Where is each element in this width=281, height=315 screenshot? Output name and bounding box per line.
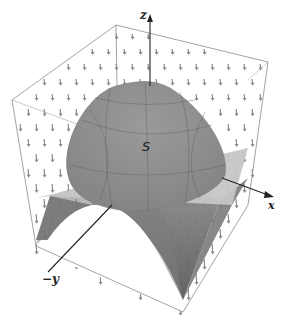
vector-arrowhead: [59, 175, 63, 178]
vector-arrow: [188, 289, 189, 298]
x-axis-arrowhead: [264, 191, 274, 198]
vector-arrowhead: [235, 113, 239, 116]
vector-arrow: [204, 259, 205, 268]
vector-arrowhead: [259, 98, 263, 101]
vector-arrowhead: [235, 144, 239, 147]
vector-arrowhead: [139, 297, 143, 300]
vector-arrowhead: [59, 144, 63, 147]
vector-arrowhead: [251, 83, 255, 86]
vector-arrowhead: [99, 282, 103, 285]
vector-arrowhead: [43, 113, 47, 116]
vector-arrowhead: [203, 267, 207, 270]
vector-arrowhead: [115, 67, 119, 70]
vector-arrowhead: [83, 67, 87, 70]
vector-arrowhead: [107, 83, 111, 86]
vector-arrowhead: [43, 205, 47, 208]
vector-arrowhead: [219, 83, 223, 86]
vector-arrowhead: [251, 144, 255, 147]
vector-arrowhead: [27, 113, 31, 116]
x-axis-label: x: [267, 199, 275, 212]
vector-arrow: [44, 199, 45, 206]
vector-arrowhead: [227, 67, 231, 70]
vector-arrowhead: [99, 67, 103, 70]
vector-arrowhead: [203, 83, 207, 86]
vector-arrowhead: [35, 221, 39, 224]
vector-arrowhead: [243, 67, 247, 70]
vector-arrowhead: [243, 129, 247, 132]
vector-arrowhead: [43, 144, 47, 147]
vector-arrowhead: [59, 83, 63, 86]
vector-arrow: [220, 229, 221, 237]
vector-arrowhead: [35, 98, 39, 101]
vector-arrow: [196, 274, 197, 283]
vector-arrowhead: [27, 175, 31, 178]
vector-arrowhead: [163, 67, 167, 70]
vector-arrowhead: [131, 37, 135, 40]
vector-arrowhead: [243, 98, 247, 101]
vector-arrowhead: [83, 98, 87, 101]
z-axis-arrowhead: [147, 14, 153, 22]
vector-arrow: [36, 184, 37, 191]
vector-arrow: [212, 244, 213, 252]
vector-arrowhead: [155, 52, 159, 55]
vector-arrowhead: [171, 83, 175, 86]
surface-label: S: [142, 139, 150, 154]
vector-arrowhead: [235, 205, 239, 208]
vector-arrowhead: [251, 175, 255, 178]
vector-arrowhead: [219, 113, 223, 116]
vector-arrowhead: [139, 52, 143, 55]
vector-arrowhead: [107, 52, 111, 55]
vector-arrowhead: [51, 98, 55, 101]
vector-arrowhead: [51, 159, 55, 162]
vector-arrowhead: [67, 98, 71, 101]
vector-arrow: [60, 169, 61, 176]
vector-arrowhead: [75, 113, 79, 116]
vector-arrowhead: [51, 129, 55, 132]
vector-arrowhead: [219, 236, 223, 239]
vector-arrowhead: [59, 113, 63, 116]
vector-arrowhead: [227, 221, 231, 224]
vector-arrow: [44, 169, 45, 176]
vector-arrowhead: [243, 190, 247, 193]
vector-arrowhead: [131, 67, 135, 70]
vector-arrowhead: [123, 52, 127, 55]
vector-arrowhead: [227, 129, 231, 132]
vector-arrowhead: [43, 175, 47, 178]
vector-arrowhead: [35, 159, 39, 162]
vector-arrow: [36, 214, 37, 222]
vector-arrowhead: [171, 52, 175, 55]
vector-arrowhead: [67, 67, 71, 70]
vector-arrowhead: [27, 144, 31, 147]
vector-arrow: [228, 214, 229, 222]
vector-arrowhead: [251, 113, 255, 116]
vector-arrowhead: [115, 37, 119, 40]
z-axis-label: z: [139, 8, 148, 22]
vector-arrowhead: [203, 52, 207, 55]
vector-arrowhead: [187, 52, 191, 55]
vector-arrowhead: [67, 129, 71, 132]
y-axis-label: −y: [42, 272, 60, 286]
vector-arrowhead: [91, 52, 95, 55]
vector-arrowhead: [91, 83, 95, 86]
surface-diagram: S z x −y: [0, 0, 281, 315]
vector-arrow: [52, 184, 53, 191]
vector-arrowhead: [227, 98, 231, 101]
vector-arrowhead: [195, 98, 199, 101]
vector-arrow: [236, 199, 237, 206]
surface-s: S: [67, 82, 226, 212]
vector-arrowhead: [187, 83, 191, 86]
vector-arrowhead: [75, 83, 79, 86]
vector-arrowhead: [211, 98, 215, 101]
vector-arrowhead: [211, 251, 215, 254]
vector-arrowhead: [35, 251, 39, 254]
vector-arrowhead: [35, 129, 39, 132]
vector-arrowhead: [195, 67, 199, 70]
vector-arrowhead: [35, 190, 39, 193]
vector-arrowhead: [179, 67, 183, 70]
vector-arrowhead: [211, 67, 215, 70]
vector-arrowhead: [195, 282, 199, 285]
vector-arrowhead: [43, 83, 47, 86]
vector-arrowhead: [235, 83, 239, 86]
vector-arrowhead: [19, 129, 23, 132]
vector-arrow: [244, 184, 245, 191]
